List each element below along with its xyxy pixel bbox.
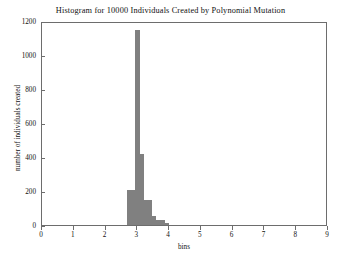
x-axis-tick-mark bbox=[168, 226, 169, 230]
x-axis-tick-label: 2 bbox=[103, 231, 107, 239]
bars-layer bbox=[42, 23, 326, 225]
y-axis-label: number of individuals created bbox=[14, 58, 22, 198]
x-axis-tick-label: 6 bbox=[230, 231, 234, 239]
x-axis-tick-label: 1 bbox=[71, 231, 75, 239]
y-axis-tick-mark bbox=[41, 22, 45, 23]
x-axis-tick-mark bbox=[73, 226, 74, 230]
y-axis-tick-label: 200 bbox=[25, 188, 36, 196]
x-axis-tick-label: 9 bbox=[325, 231, 329, 239]
histogram-bar bbox=[165, 223, 169, 225]
y-axis-tick-mark bbox=[41, 192, 45, 193]
x-axis-tick-mark bbox=[295, 226, 296, 230]
chart-title: Histogram for 10000 Individuals Created … bbox=[0, 6, 341, 15]
x-axis-tick-labels: 0123456789 bbox=[41, 231, 327, 243]
y-axis-tick-mark bbox=[41, 124, 45, 125]
y-axis-tick-label: 400 bbox=[25, 154, 36, 162]
y-axis-tick-mark bbox=[41, 90, 45, 91]
y-axis-tick-label: 1200 bbox=[22, 18, 36, 26]
y-axis-tick-label: 1000 bbox=[22, 52, 36, 60]
x-axis-tick-label: 3 bbox=[135, 231, 139, 239]
y-axis-tick-marks bbox=[41, 22, 46, 226]
x-axis-label: bins bbox=[41, 243, 327, 251]
x-axis-tick-mark bbox=[136, 226, 137, 230]
x-axis-tick-label: 8 bbox=[293, 231, 297, 239]
y-axis-tick-label: 600 bbox=[25, 120, 36, 128]
x-axis-tick-mark bbox=[327, 226, 328, 230]
plot-area bbox=[41, 22, 327, 226]
y-axis-tick-label: 800 bbox=[25, 86, 36, 94]
y-axis-tick-mark bbox=[41, 56, 45, 57]
x-axis-tick-mark bbox=[263, 226, 264, 230]
x-axis-tick-label: 4 bbox=[166, 231, 170, 239]
x-axis-tick-mark bbox=[41, 226, 42, 230]
x-axis-tick-mark bbox=[105, 226, 106, 230]
histogram-figure: Histogram for 10000 Individuals Created … bbox=[0, 0, 341, 263]
x-axis-tick-label: 5 bbox=[198, 231, 202, 239]
x-axis-tick-mark bbox=[200, 226, 201, 230]
y-axis-tick-mark bbox=[41, 158, 45, 159]
y-axis-tick-label: 0 bbox=[32, 222, 36, 230]
x-axis-tick-label: 7 bbox=[262, 231, 266, 239]
x-axis-tick-label: 0 bbox=[39, 231, 43, 239]
x-axis-tick-mark bbox=[232, 226, 233, 230]
